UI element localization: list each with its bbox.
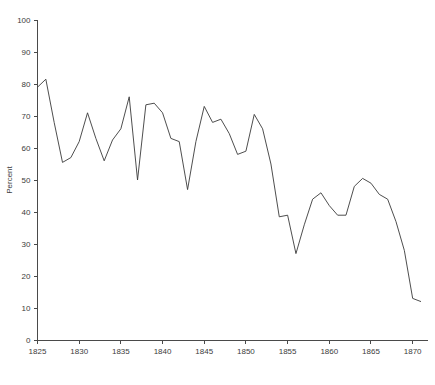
y-tick-label: 50 [22,176,31,185]
line-chart: 0102030405060708090100 Percent 182518301… [0,0,435,385]
x-axis-ticks: 1825183018351840184518501855186018651870 [29,340,423,356]
x-tick-label: 1825 [29,347,47,356]
plot-area [38,79,422,301]
x-tick-label: 1855 [279,347,297,356]
x-tick-label: 1830 [70,347,88,356]
y-tick-label: 40 [22,208,31,217]
x-axis: 1825183018351840184518501855186018651870 [29,340,428,356]
x-tick-label: 1835 [112,347,130,356]
data-series-line [38,79,422,301]
x-tick-label: 1870 [404,347,422,356]
y-tick-label: 10 [22,304,31,313]
y-tick-label: 0 [26,336,31,345]
x-tick-label: 1845 [195,347,213,356]
y-tick-label: 90 [22,48,31,57]
y-axis-title: Percent [5,165,14,193]
chart-container: 0102030405060708090100 Percent 182518301… [0,0,435,385]
y-axis-ticks: 0102030405060708090100 [17,16,37,345]
x-tick-label: 1840 [154,347,172,356]
x-tick-label: 1850 [237,347,255,356]
x-tick-label: 1860 [320,347,338,356]
y-tick-label: 80 [22,80,31,89]
y-tick-label: 70 [22,112,31,121]
y-axis: 0102030405060708090100 Percent [5,16,38,345]
y-tick-label: 30 [22,240,31,249]
y-tick-label: 60 [22,144,31,153]
y-tick-label: 100 [17,16,31,25]
x-tick-label: 1865 [362,347,380,356]
y-tick-label: 20 [22,272,31,281]
